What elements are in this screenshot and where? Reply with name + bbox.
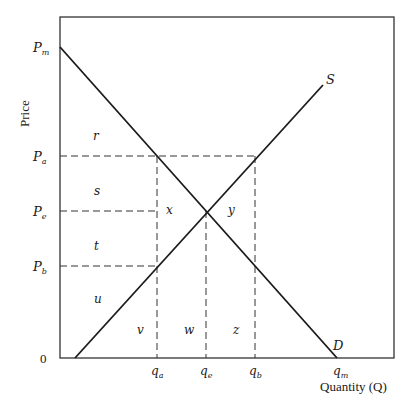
supply-curve — [75, 85, 323, 358]
x-axis-title: Quantity (Q) — [320, 379, 387, 394]
quantity-axis-labels: qa qe qb qm — [151, 364, 349, 380]
supply-demand-diagram: S D Pm Pa Pe Pb 0 Price qa qe qb qm Quan… — [0, 0, 415, 408]
plot-frame — [60, 17, 394, 358]
qm-label: qm — [333, 364, 349, 380]
supply-label: S — [326, 72, 335, 87]
region-x-label: x — [166, 203, 173, 217]
pm-label: Pm — [32, 40, 50, 57]
demand-curve — [60, 47, 337, 358]
pa-label: Pa — [32, 149, 47, 166]
region-labels: r s t u v w x y z — [93, 129, 240, 337]
region-t-label: t — [94, 239, 99, 253]
origin-label: 0 — [40, 351, 47, 366]
pb-label: Pb — [32, 259, 47, 276]
qa-label: qa — [151, 364, 164, 380]
y-axis-title: Price — [17, 100, 32, 127]
qb-label: qb — [249, 364, 262, 380]
region-z-label: z — [232, 323, 240, 337]
region-s-label: s — [94, 184, 100, 198]
region-y-label: y — [227, 203, 235, 217]
demand-label: D — [332, 338, 344, 353]
region-w-label: w — [184, 323, 195, 337]
pe-label: Pe — [32, 204, 47, 221]
region-u-label: u — [94, 292, 102, 306]
region-r-label: r — [93, 129, 100, 143]
guide-lines — [60, 156, 255, 358]
region-v-label: v — [137, 323, 144, 337]
price-axis-labels: Pm Pa Pe Pb 0 — [32, 40, 50, 366]
qe-label: qe — [200, 364, 213, 380]
